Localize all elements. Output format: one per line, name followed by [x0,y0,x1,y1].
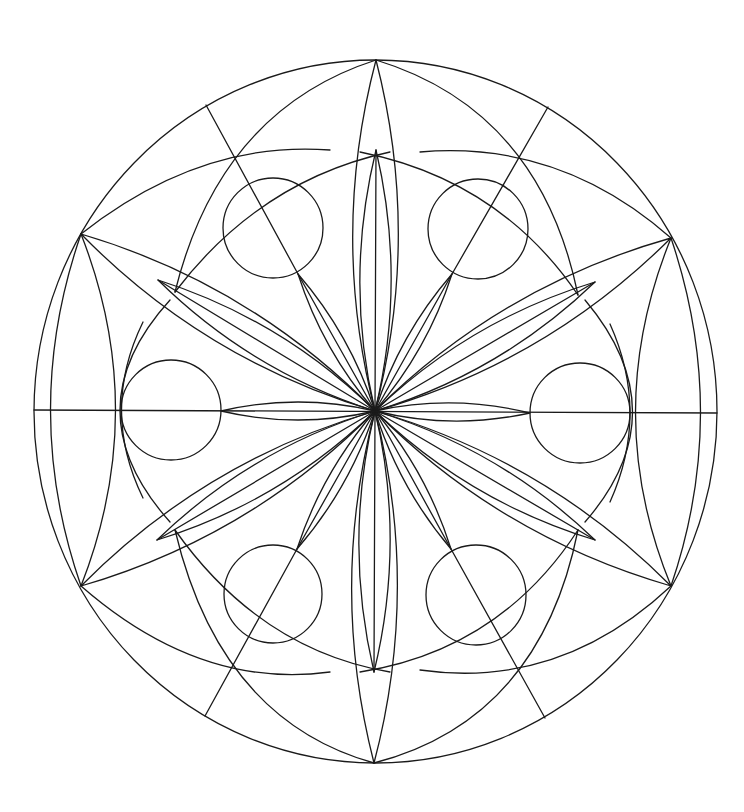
crossing-arc [81,149,330,234]
diagonal-line [451,549,545,718]
crossing-arc [376,60,578,295]
inner-petal-vein [375,282,595,411]
crossing-arc [374,530,578,763]
inner-petal-vein [375,411,595,540]
crossing-arc [360,152,578,295]
crossing-arc [175,530,390,672]
crossing-arc [81,586,330,675]
crossing-arc [360,530,578,672]
crossing-arc [175,152,390,292]
crossing-arc [420,151,671,238]
crossing-arc [420,586,671,673]
crossing-arc [585,300,633,522]
inner-petal-vein [158,280,375,411]
mandala-canvas [0,0,744,812]
small-petal-vein [297,411,375,549]
diagonal-line [206,105,298,274]
crossing-arc [636,238,672,586]
crossing-arc [175,530,374,763]
mandala-drawing [0,0,744,812]
ring-circle [224,545,322,643]
small-petal-vein [375,274,452,411]
inner-petal-vein [157,411,375,540]
